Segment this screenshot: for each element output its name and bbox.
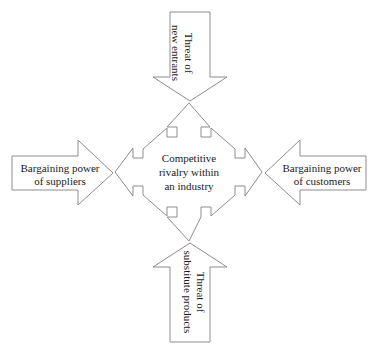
label-threat-of-substitute-products: Threat of substitute products [181, 248, 207, 336]
center-label-competitive-rivalry: Competitive rivalry within an industry [148, 151, 230, 193]
porters-five-forces-diagram: Competitive rivalry within an industry B… [0, 0, 378, 355]
label-bargaining-power-suppliers: Bargaining power of suppliers [14, 162, 106, 188]
label-threat-of-new-entrants: Threat of new entrants [169, 14, 195, 92]
label-bargaining-power-customers: Bargaining power of customers [276, 162, 368, 188]
